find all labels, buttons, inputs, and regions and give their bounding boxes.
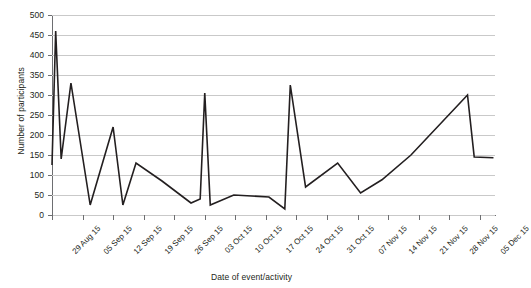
x-tick-mark-6 (235, 215, 236, 220)
y-tick-label-250: 250 (0, 110, 44, 120)
x-tick-mark-4 (174, 215, 175, 220)
x-tick-mark-2 (113, 215, 114, 220)
x-tick-label-11: 14 Nov 15 (407, 224, 439, 256)
x-tick-mark-14 (480, 215, 481, 220)
y-tick-label-50: 50 (0, 190, 44, 200)
x-tick-mark-13 (449, 215, 450, 220)
y-tick-label-500: 500 (0, 10, 44, 20)
x-tick-label-7: 17 Oct 15 (284, 224, 315, 255)
x-tick-label-3: 19 Sep 15 (162, 224, 194, 256)
x-tick-mark-3 (144, 215, 145, 220)
y-tick-label-300: 300 (0, 90, 44, 100)
y-axis-tick-labels: 050100150200250300350400450500 (0, 0, 52, 288)
y-tick-label-200: 200 (0, 130, 44, 140)
y-tick-label-0: 0 (0, 210, 44, 220)
x-tick-label-1: 05 Sep 15 (101, 224, 133, 256)
x-tick-label-2: 12 Sep 15 (132, 224, 164, 256)
x-tick-mark-1 (83, 215, 84, 220)
y-tick-label-100: 100 (0, 170, 44, 180)
plot-area (52, 15, 495, 215)
y-tick-label-450: 450 (0, 30, 44, 40)
y-tick-label-350: 350 (0, 70, 44, 80)
x-tick-label-0: 29 Aug 15 (71, 224, 103, 256)
x-tick-label-5: 03 Oct 15 (223, 224, 254, 255)
y-tick-label-150: 150 (0, 150, 44, 160)
x-tick-label-10: 07 Nov 15 (376, 224, 408, 256)
x-tick-mark-10 (358, 215, 359, 220)
x-tick-mark-7 (266, 215, 267, 220)
x-axis-title: Date of event/activity (0, 272, 503, 282)
x-tick-mark-0 (52, 215, 53, 220)
x-tick-mark-12 (419, 215, 420, 220)
series-line-number-of-participants (52, 15, 495, 215)
x-tick-label-12: 21 Nov 15 (437, 224, 469, 256)
x-tick-mark-8 (296, 215, 297, 220)
x-tick-label-9: 31 Oct 15 (345, 224, 376, 255)
x-tick-label-6: 10 Oct 15 (253, 224, 284, 255)
x-tick-mark-11 (388, 215, 389, 220)
x-tick-mark-5 (205, 215, 206, 220)
x-tick-label-4: 26 Sep 15 (193, 224, 225, 256)
x-tick-mark-9 (327, 215, 328, 220)
x-tick-label-13: 28 Nov 15 (468, 224, 500, 256)
y-tick-label-400: 400 (0, 50, 44, 60)
x-tick-label-14: 05 Dec 15 (498, 224, 530, 256)
gridline-0 (52, 215, 495, 216)
x-tick-label-8: 24 Oct 15 (315, 224, 346, 255)
